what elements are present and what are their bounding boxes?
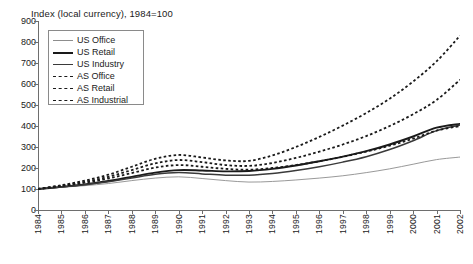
- y-tick-label: 800: [3, 38, 36, 47]
- x-tick-label: 1989: [150, 214, 160, 234]
- x-tick-label: 1993: [244, 214, 254, 234]
- x-tick-label: 2000: [408, 214, 418, 234]
- legend-swatch-icon: [53, 95, 73, 106]
- legend-item-label: US Retail: [77, 47, 115, 58]
- x-tick-label: 1992: [221, 214, 231, 234]
- x-tick-mark: [390, 210, 391, 214]
- x-tick-mark: [272, 210, 273, 214]
- y-tick-mark: [34, 84, 38, 85]
- y-tick-mark: [34, 63, 38, 64]
- x-tick-label: 1999: [385, 214, 395, 234]
- x-tick-label: 1984: [33, 214, 43, 234]
- y-tick-mark: [34, 126, 38, 127]
- legend-swatch-icon: [53, 35, 73, 46]
- y-tick-mark: [34, 147, 38, 148]
- series-line: [38, 125, 460, 189]
- x-tick-mark: [85, 210, 86, 214]
- chart-container: Index (local currency), 1984=100 0100200…: [0, 0, 473, 264]
- legend-item-label: AS Office: [77, 71, 115, 82]
- chart-legend: US OfficeUS RetailUS IndustryAS OfficeAS…: [48, 30, 144, 105]
- x-tick-mark: [155, 210, 156, 214]
- series-line: [38, 124, 460, 189]
- y-tick-mark: [34, 189, 38, 190]
- legend-item[interactable]: AS Industrial: [53, 94, 139, 106]
- x-tick-label: 1994: [267, 214, 277, 234]
- y-tick-label: 600: [3, 80, 36, 89]
- x-tick-mark: [61, 210, 62, 214]
- y-tick-label: 500: [3, 101, 36, 110]
- x-tick-label: 1995: [291, 214, 301, 234]
- y-axis-tick-labels: 0100200300400500600700800900: [0, 0, 36, 264]
- chart-title: Index (local currency), 1984=100: [31, 8, 173, 19]
- x-tick-label: 1985: [56, 214, 66, 234]
- legend-swatch-icon: [53, 59, 73, 70]
- legend-item[interactable]: US Industry: [53, 58, 139, 70]
- legend-item-label: AS Industrial: [77, 95, 128, 106]
- y-tick-label: 400: [3, 122, 36, 131]
- y-tick-mark: [34, 168, 38, 169]
- x-tick-label: 1988: [127, 214, 137, 234]
- x-tick-label: 1997: [338, 214, 348, 234]
- y-tick-label: 200: [3, 164, 36, 173]
- legend-item[interactable]: AS Office: [53, 70, 139, 82]
- x-tick-label: 2002: [455, 214, 465, 234]
- legend-item-label: US Industry: [77, 59, 124, 70]
- legend-item[interactable]: AS Retail: [53, 82, 139, 94]
- x-tick-mark: [460, 210, 461, 214]
- y-tick-mark: [34, 42, 38, 43]
- y-tick-label: 700: [3, 59, 36, 68]
- legend-item-label: US Office: [77, 35, 115, 46]
- x-tick-mark: [108, 210, 109, 214]
- y-tick-label: 100: [3, 185, 36, 194]
- x-tick-label: 1991: [197, 214, 207, 234]
- x-tick-mark: [226, 210, 227, 214]
- x-tick-mark: [296, 210, 297, 214]
- x-tick-label: 2001: [432, 214, 442, 234]
- y-tick-label: 300: [3, 143, 36, 152]
- y-tick-mark: [34, 105, 38, 106]
- y-tick-label: 0: [3, 206, 36, 215]
- legend-item[interactable]: US Office: [53, 34, 139, 46]
- x-tick-label: 1996: [314, 214, 324, 234]
- x-tick-mark: [413, 210, 414, 214]
- y-tick-mark: [34, 21, 38, 22]
- x-tick-mark: [366, 210, 367, 214]
- y-tick-label: 900: [3, 17, 36, 26]
- x-tick-mark: [202, 210, 203, 214]
- legend-item-label: AS Retail: [77, 83, 115, 94]
- series-line: [38, 157, 460, 189]
- legend-swatch-icon: [53, 71, 73, 82]
- x-tick-mark: [179, 210, 180, 214]
- legend-item[interactable]: US Retail: [53, 46, 139, 58]
- x-tick-mark: [132, 210, 133, 214]
- x-tick-label: 1987: [103, 214, 113, 234]
- x-tick-label: 1986: [80, 214, 90, 234]
- x-tick-label: 1990: [174, 214, 184, 234]
- x-tick-mark: [249, 210, 250, 214]
- x-tick-mark: [343, 210, 344, 214]
- legend-swatch-icon: [53, 47, 73, 58]
- x-tick-mark: [437, 210, 438, 214]
- legend-swatch-icon: [53, 83, 73, 94]
- x-tick-mark: [38, 210, 39, 214]
- x-tick-label: 1998: [361, 214, 371, 234]
- x-tick-mark: [319, 210, 320, 214]
- series-line: [38, 126, 460, 189]
